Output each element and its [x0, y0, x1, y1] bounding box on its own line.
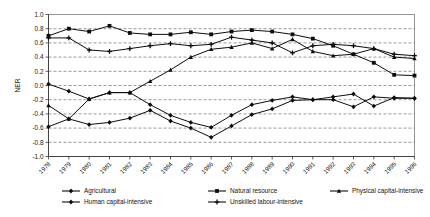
y-tick-label: -0.4 [32, 110, 43, 117]
x-tick-label: 1989 [261, 160, 276, 175]
x-tick-label: 1993 [342, 160, 357, 175]
y-tick-label: -0.2 [32, 96, 43, 103]
y-tick-label: 0.8 [35, 25, 44, 32]
x-tick-label: 1986 [200, 160, 215, 175]
data-point [169, 32, 173, 36]
legend-item-natural-resource[interactable]: Natural resource [208, 187, 278, 194]
data-point [311, 37, 315, 41]
legend-marker [69, 189, 73, 194]
legend-item-human-capital-intensive[interactable]: Human capital-intensive [62, 198, 153, 206]
x-tick-label: 1994 [362, 160, 377, 175]
data-point [250, 28, 254, 32]
data-point [189, 30, 193, 34]
data-point [270, 30, 274, 34]
legend-label: Unskilled labour-intensive [230, 198, 303, 205]
x-tick-label: 1987 [220, 160, 235, 175]
x-tick-label: 1985 [179, 160, 194, 175]
x-tick-label: 1978 [37, 160, 52, 175]
legend-label: Human capital-intensive [84, 198, 153, 206]
y-tick-label: -1.0 [32, 153, 43, 160]
data-point [108, 24, 112, 28]
x-tick-label: 1991 [301, 160, 316, 175]
data-point [209, 32, 213, 36]
x-tick-label: 1984 [159, 160, 174, 175]
data-point [372, 61, 376, 65]
data-point [87, 30, 91, 34]
x-tick-label: 1990 [281, 160, 296, 175]
x-tick-label: 1995 [383, 160, 398, 175]
legend-item-physical-capital-intensive[interactable]: Physical capital-intensive [330, 187, 424, 195]
x-tick-label: 1980 [78, 160, 93, 175]
x-tick-label: 1996 [403, 160, 418, 175]
x-tick-label: 1992 [322, 160, 337, 175]
x-tick-label: 1988 [240, 160, 255, 175]
legend-label: Agricultural [84, 187, 116, 195]
data-point [148, 32, 152, 36]
legend-marker [69, 200, 73, 205]
x-tick-label: 1982 [118, 160, 133, 175]
data-point [392, 73, 396, 77]
data-point [413, 74, 417, 78]
chart-container: 1.00.80.60.40.20.0-0.2-0.4-0.6-0.8-1.0NE… [0, 0, 430, 217]
y-axis-title: NER [14, 78, 21, 92]
y-tick-label: 0.6 [35, 39, 44, 46]
legend-marker [215, 189, 219, 193]
y-tick-label: 0.0 [35, 82, 44, 89]
y-tick-label: 0.2 [35, 68, 44, 75]
y-tick-label: 0.4 [35, 53, 44, 60]
y-tick-label: 1.0 [35, 11, 44, 18]
x-tick-label: 1979 [57, 160, 72, 175]
legend-marker [215, 200, 220, 205]
data-point [67, 27, 71, 31]
legend-item-unskilled-labour-intensive[interactable]: Unskilled labour-intensive [208, 198, 303, 205]
x-tick-label: 1981 [98, 160, 113, 175]
x-tick-label: 1983 [139, 160, 154, 175]
legend-item-agricultural[interactable]: Agricultural [62, 187, 116, 195]
y-tick-label: -0.6 [32, 124, 43, 131]
line-chart: 1.00.80.60.40.20.0-0.2-0.4-0.6-0.8-1.0NE… [0, 0, 430, 217]
legend-label: Natural resource [230, 187, 278, 194]
data-point [291, 32, 295, 36]
y-tick-label: -0.8 [32, 139, 43, 146]
data-point [230, 30, 234, 34]
data-point [128, 31, 132, 35]
legend-label: Physical capital-intensive [352, 187, 424, 195]
